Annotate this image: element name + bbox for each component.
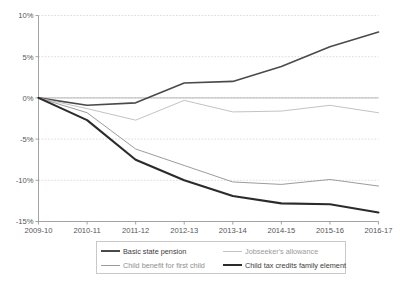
x-tick-label: 2014-15 [267, 226, 295, 235]
legend-item-jobseekers-allowance[interactable]: Jobseeker's allowance [223, 247, 347, 256]
chart-legend: Basic state pension Jobseeker's allowanc… [96, 241, 346, 274]
y-axis [36, 16, 39, 222]
line-chart: 10%5%0%-5%-10%-15% 2009-102010-112011-12… [0, 0, 404, 283]
series-lines [39, 32, 379, 212]
x-axis [39, 222, 379, 225]
legend-swatch-basic-state-pension [101, 250, 120, 252]
x-tick-label: 2015-16 [316, 226, 344, 235]
legend-item-child-benefit-first-child[interactable]: Child benefit for first child [101, 261, 223, 270]
gridlines [39, 16, 379, 222]
x-tick-label: 2013-14 [219, 226, 247, 235]
y-tick-labels: 10%5%0%-5%-10%-15% [16, 11, 34, 226]
legend-swatch-child-benefit-first-child [101, 265, 120, 266]
legend-label-basic-state-pension: Basic state pension [123, 247, 186, 256]
y-tick-label: 5% [23, 53, 34, 62]
x-tick-label: 2016-17 [365, 226, 393, 235]
y-tick-label: -15% [16, 217, 34, 226]
y-tick-label: -10% [16, 176, 34, 185]
x-tick-label: 2009-10 [25, 226, 53, 235]
series-line-jobseeker-s-allowance [39, 98, 379, 120]
legend-swatch-jobseekers-allowance [223, 251, 242, 252]
y-tick-label: -5% [20, 135, 34, 144]
y-tick-label: 10% [18, 11, 33, 20]
legend-label-child-benefit-first-child: Child benefit for first child [123, 261, 205, 270]
legend-swatch-child-tax-credits-family-element [223, 264, 242, 266]
x-tick-label: 2010-11 [73, 226, 100, 235]
x-tick-label: 2012-13 [170, 226, 198, 235]
series-line-basic-state-pension [39, 32, 379, 105]
legend-item-child-tax-credits-family-element[interactable]: Child tax credits family element [223, 261, 347, 270]
legend-label-child-tax-credits-family-element: Child tax credits family element [245, 261, 346, 270]
legend-item-basic-state-pension[interactable]: Basic state pension [101, 247, 223, 256]
x-tick-labels: 2009-102010-112011-122012-132013-142014-… [25, 226, 393, 235]
series-line-child-benefit-for-first-child [39, 98, 379, 186]
legend-label-jobseekers-allowance: Jobseeker's allowance [245, 247, 318, 256]
y-tick-label: 0% [23, 94, 34, 103]
x-tick-label: 2011-12 [122, 226, 149, 235]
